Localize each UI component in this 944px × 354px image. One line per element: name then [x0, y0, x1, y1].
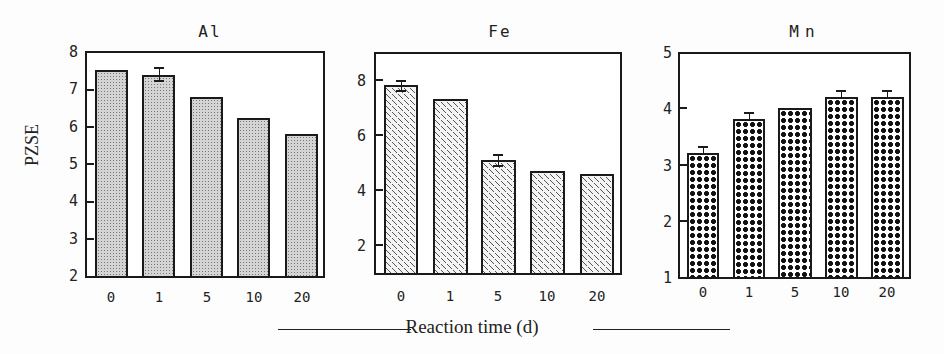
ytick-mark	[87, 238, 94, 240]
xtick-label: 10	[527, 288, 567, 304]
xtick-label: 5	[478, 288, 518, 304]
panel-title-mn: Mn	[775, 22, 835, 41]
ytick-mark	[87, 126, 94, 128]
xtick-label: 1	[139, 289, 179, 305]
error-bar-stem	[887, 90, 888, 97]
xtick-label: 1	[729, 284, 769, 300]
ytick-label: 2	[346, 237, 366, 255]
bar-fe-1	[433, 99, 468, 275]
ytick-label: 8	[58, 43, 78, 61]
xtick-label: 20	[867, 284, 907, 300]
bar-mn-1	[733, 119, 765, 279]
ytick-label: 5	[652, 44, 672, 62]
ytick-mark	[376, 79, 383, 81]
ytick-mark	[680, 164, 687, 166]
ytick-label: 7	[58, 80, 78, 98]
bar-fe-5	[481, 160, 516, 275]
xtick-label: 5	[187, 289, 227, 305]
error-bar-stem	[841, 90, 842, 97]
ytick-label: 3	[652, 157, 672, 175]
error-bar-stem	[749, 112, 750, 119]
xtick-label: 10	[821, 284, 861, 300]
x-title-rule-right	[593, 329, 730, 330]
error-bar-stem	[159, 67, 160, 81]
bar-mn-20	[871, 97, 904, 279]
ytick-mark	[376, 134, 383, 136]
ytick-label: 6	[58, 118, 78, 136]
ytick-mark	[680, 220, 687, 222]
ytick-mark	[376, 244, 383, 246]
bar-mn-10	[825, 97, 858, 279]
ytick-mark	[87, 201, 94, 203]
ytick-label: 4	[346, 182, 366, 200]
ytick-label: 4	[652, 100, 672, 118]
ytick-label: 6	[346, 127, 366, 145]
ytick-mark	[680, 107, 687, 109]
xtick-label: 10	[234, 289, 274, 305]
bar-mn-5	[778, 108, 812, 279]
panel-title-fe: Fe	[470, 22, 530, 41]
xtick-label: 0	[683, 284, 723, 300]
ytick-label: 4	[58, 192, 78, 210]
ytick-label: 5	[58, 155, 78, 173]
bar-mn-0	[687, 153, 719, 279]
ytick-label: 3	[58, 230, 78, 248]
ytick-label: 2	[652, 213, 672, 231]
error-bar-stem	[703, 146, 704, 153]
xtick-label: 1	[430, 288, 470, 304]
bar-al-0	[95, 70, 128, 278]
x-axis-title: Reaction time (d)	[0, 316, 944, 338]
ytick-label: 2	[58, 267, 78, 285]
y-axis-title: PZSE	[22, 124, 43, 166]
ytick-mark	[376, 189, 383, 191]
xtick-label: 5	[775, 284, 815, 300]
bar-al-10	[237, 118, 270, 278]
xtick-label: 0	[381, 288, 421, 304]
bar-fe-10	[530, 171, 565, 275]
bar-al-5	[190, 97, 223, 278]
error-bar-cap	[154, 80, 164, 82]
ytick-mark	[87, 163, 94, 165]
bar-fe-0	[384, 85, 418, 275]
ytick-label: 1	[652, 269, 672, 287]
xtick-label: 20	[577, 288, 617, 304]
bar-al-1	[142, 75, 175, 278]
error-bar-cap	[396, 90, 406, 92]
bar-al-20	[285, 134, 318, 278]
xtick-label: 0	[91, 289, 131, 305]
xtick-label: 20	[282, 289, 322, 305]
ytick-label: 8	[346, 72, 366, 90]
panel-title-al: Al	[180, 22, 240, 41]
error-bar-cap	[493, 165, 503, 167]
ytick-mark	[87, 89, 94, 91]
bar-fe-20	[580, 174, 614, 275]
